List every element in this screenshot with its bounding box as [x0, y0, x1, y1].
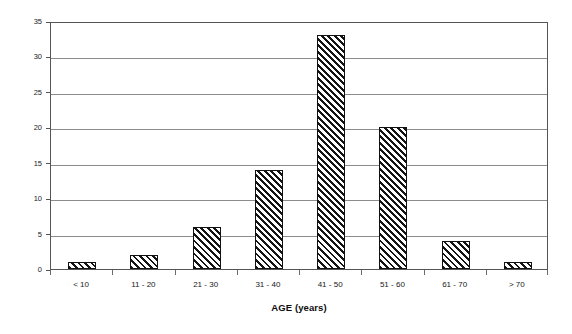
- y-axis-tick-label: 25: [34, 88, 46, 98]
- x-axis-tick-mark: [237, 270, 238, 275]
- bar-slot: [113, 23, 175, 269]
- y-axis-tick-label: 5: [38, 230, 46, 240]
- x-axis-tick-label: 11 - 20: [112, 279, 174, 291]
- bar-slot: [238, 23, 300, 269]
- y-axis-tick: 0: [0, 265, 50, 275]
- x-axis-labels: < 1011 - 2021 - 3031 - 4041 - 5051 - 606…: [50, 279, 548, 295]
- y-axis-tick: 5: [0, 230, 50, 240]
- y-axis-tick: 30: [0, 52, 50, 62]
- x-axis-tick-label: 21 - 30: [175, 279, 237, 291]
- bars-layer: [51, 23, 547, 269]
- bar-slot: [176, 23, 238, 269]
- bar[interactable]: [504, 262, 532, 269]
- y-axis-tick-label: 20: [34, 123, 46, 133]
- x-axis-tick-mark: [299, 270, 300, 275]
- x-axis-tick-mark: [112, 270, 113, 275]
- x-axis-tick-mark: [50, 270, 51, 275]
- bar[interactable]: [130, 255, 158, 269]
- x-axis-ticks: [50, 270, 548, 276]
- plot-area: [50, 22, 548, 270]
- bar[interactable]: [193, 227, 221, 270]
- y-axis-tick-label: 10: [34, 194, 46, 204]
- y-axis-tick: 15: [0, 159, 50, 169]
- bar[interactable]: [255, 170, 283, 269]
- y-axis-tick: 10: [0, 194, 50, 204]
- bar-slot: [487, 23, 549, 269]
- x-axis-tick-mark: [175, 270, 176, 275]
- bar[interactable]: [379, 127, 407, 269]
- x-axis-tick-mark: [361, 270, 362, 275]
- histogram-chart: Number of Patients 05101520253035 < 1011…: [0, 0, 572, 334]
- x-axis-tick-label: 41 - 50: [299, 279, 361, 291]
- y-axis-tick-label: 0: [38, 265, 46, 275]
- x-axis-tick-mark: [486, 270, 487, 275]
- y-axis-tick: 25: [0, 88, 50, 98]
- bar[interactable]: [68, 262, 96, 269]
- y-axis-ticks: 05101520253035: [0, 22, 50, 270]
- bar[interactable]: [442, 241, 470, 269]
- bar-slot: [51, 23, 113, 269]
- y-axis-tick-label: 35: [34, 17, 46, 27]
- y-axis-tick: 35: [0, 17, 50, 27]
- x-axis-tick-label: 51 - 60: [361, 279, 423, 291]
- y-axis-tick-label: 15: [34, 159, 46, 169]
- x-axis-tick-label: < 10: [50, 279, 112, 291]
- bar-slot: [300, 23, 362, 269]
- x-axis-tick-label: 61 - 70: [424, 279, 486, 291]
- x-axis-tick-label: > 70: [486, 279, 548, 291]
- y-axis-tick: 20: [0, 123, 50, 133]
- x-axis-tick-mark: [424, 270, 425, 275]
- x-axis-tick-mark: [547, 270, 548, 275]
- bar-slot: [362, 23, 424, 269]
- x-axis-tick-label: 31 - 40: [237, 279, 299, 291]
- x-axis-title: AGE (years): [50, 302, 548, 313]
- bar-slot: [425, 23, 487, 269]
- bar[interactable]: [317, 35, 345, 269]
- y-axis-tick-label: 30: [34, 52, 46, 62]
